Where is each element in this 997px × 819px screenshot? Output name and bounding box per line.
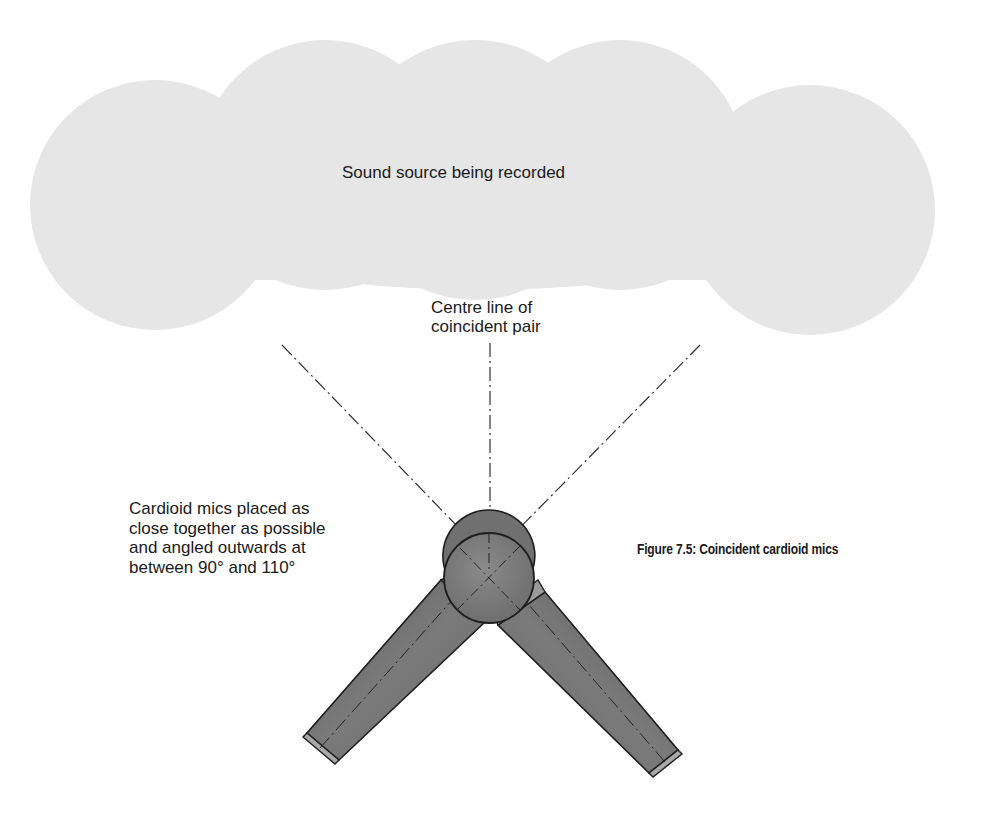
sound-source-label: Sound source being recorded	[342, 163, 565, 183]
right-mic-body	[498, 592, 678, 773]
sound-source-cloud	[30, 40, 935, 335]
mics-label-line: close together as possible	[129, 519, 326, 539]
centre-line-label-line: coincident pair	[431, 317, 541, 336]
mics-label-line: Cardioid mics placed as	[129, 499, 326, 519]
centre-line-label-line: Centre line of	[431, 298, 541, 317]
mics-label-line: between 90° and 110°	[129, 558, 326, 578]
figure-caption: Figure 7.5: Coincident cardioid mics	[637, 540, 838, 558]
mics-label-line: and angled outwards at	[129, 538, 326, 558]
centre-line-label: Centre line of coincident pair	[431, 298, 541, 336]
mics-description-label: Cardioid mics placed as close together a…	[129, 499, 326, 577]
mic-heads	[443, 510, 535, 623]
coincident-mics-diagram	[0, 0, 997, 819]
